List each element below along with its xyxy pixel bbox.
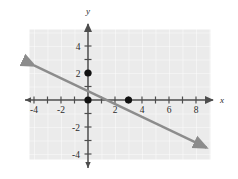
y-tick-label--4: -4 bbox=[72, 150, 80, 160]
point-y-intercept bbox=[84, 69, 91, 76]
x-tick-label--2: -2 bbox=[57, 105, 65, 115]
x-tick-label-6: 6 bbox=[167, 105, 172, 115]
y-axis-bottom-arrow bbox=[85, 162, 90, 168]
x-tick-label--4: -4 bbox=[30, 105, 38, 115]
x-axis-label: x bbox=[219, 95, 224, 105]
coordinate-plane: -4 -2 2 4 6 8 4 2 -2 -4 x y bbox=[0, 0, 238, 179]
y-axis-label: y bbox=[85, 6, 90, 16]
plot-area-background bbox=[30, 30, 211, 160]
y-tick-label-2: 2 bbox=[76, 69, 81, 79]
graph-figure: -4 -2 2 4 6 8 4 2 -2 -4 x y bbox=[0, 0, 238, 179]
y-tick-label-4: 4 bbox=[76, 42, 81, 52]
x-tick-label-2: 2 bbox=[113, 105, 118, 115]
point-x-intercept bbox=[125, 96, 132, 103]
x-axis-left-arrow bbox=[25, 97, 31, 102]
y-tick-label--2: -2 bbox=[72, 123, 80, 133]
point-origin bbox=[84, 96, 91, 103]
x-tick-label-4: 4 bbox=[140, 105, 145, 115]
x-tick-label-8: 8 bbox=[194, 105, 199, 115]
